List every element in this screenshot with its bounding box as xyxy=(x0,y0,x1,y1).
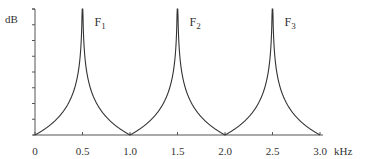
x-tick-label: 0 xyxy=(32,145,38,157)
formant-label-f1: F1 xyxy=(95,15,106,31)
formant-label-f2: F2 xyxy=(190,15,201,31)
x-tick-label: 0.5 xyxy=(76,145,90,157)
formant-chart: dB 00.51.01.52.02.53.0 kHz F1F2F3 xyxy=(0,0,365,159)
y-axis: dB xyxy=(5,9,35,135)
x-tick-label: 2.0 xyxy=(218,145,232,157)
formant-labels: F1F2F3 xyxy=(95,15,297,31)
response-curve xyxy=(35,9,320,135)
x-axis: 00.51.01.52.02.53.0 kHz xyxy=(32,132,352,157)
x-axis-unit: kHz xyxy=(334,145,352,157)
y-axis-label: dB xyxy=(5,13,18,25)
x-tick-label: 1.5 xyxy=(171,145,185,157)
x-tick-label: 2.5 xyxy=(266,145,280,157)
x-tick-label: 1.0 xyxy=(123,145,137,157)
x-tick-label: 3.0 xyxy=(313,145,327,157)
formant-label-f3: F3 xyxy=(285,15,297,31)
